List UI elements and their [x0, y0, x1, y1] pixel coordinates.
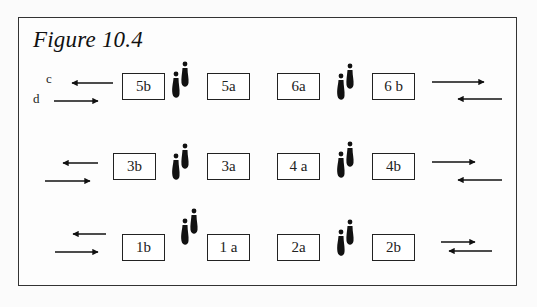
diagram-graphics [0, 0, 537, 307]
footprints-icon [172, 62, 188, 98]
footprints-icon [337, 142, 353, 178]
arrows-group [45, 82, 502, 252]
footprints-icon [337, 220, 353, 256]
footprints-icon [337, 64, 353, 100]
footprints-icon [181, 209, 197, 245]
footprints-icon [172, 144, 188, 180]
